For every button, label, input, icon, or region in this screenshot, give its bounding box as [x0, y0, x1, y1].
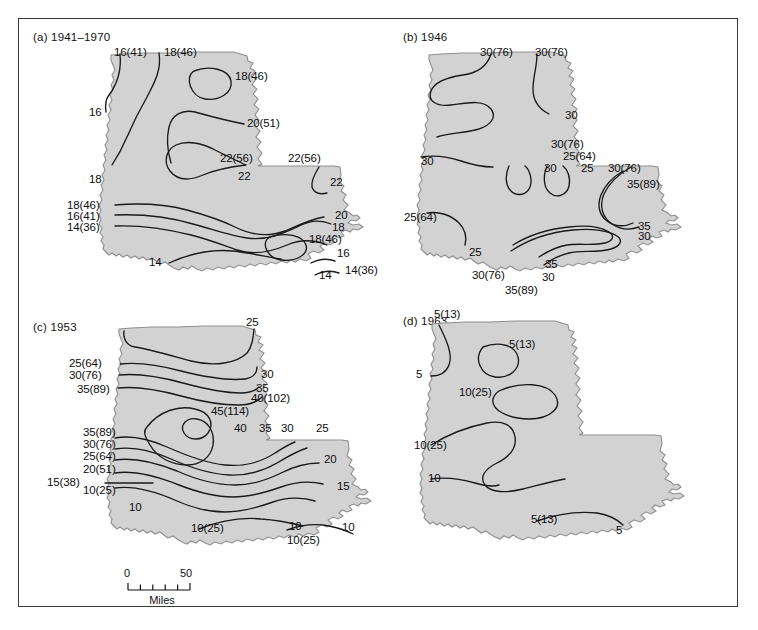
- contour-label-b-8: 30(76): [608, 163, 641, 175]
- contour-label-b-6: 30: [544, 163, 557, 175]
- figure-frame: (a) 1941–1970 16(41): [18, 18, 738, 607]
- contour-label-b-17: 30: [542, 272, 555, 284]
- contour-label-d-3: 5: [416, 369, 422, 381]
- contour-label-c-16: 20(51): [83, 464, 116, 476]
- map-d-svg: [387, 299, 739, 608]
- contour-label-c-18: 10(25): [83, 485, 116, 497]
- contour-label-c-4: 30: [261, 369, 274, 381]
- contour-label-b-2: 30(76): [535, 47, 568, 59]
- contour-label-a-3: 16: [89, 107, 102, 119]
- contour-label-a-15: 18: [332, 222, 345, 234]
- panel-a-1941-1970: (a) 1941–1970 16(41): [19, 19, 399, 311]
- scale-bar-end: 50: [180, 567, 192, 579]
- contour-label-c-9: 40: [234, 423, 247, 435]
- contour-label-c-21: 10: [129, 502, 142, 514]
- contour-label-b-13: 25(64): [404, 212, 437, 224]
- scale-bar-unit: Miles: [124, 594, 200, 606]
- panel-c-1953: (c) 1953 25 25(64) 3: [19, 299, 399, 608]
- contour-label-b-9: 35(89): [627, 179, 660, 191]
- contour-label-c-19: 20: [324, 454, 337, 466]
- contour-label-a-10: 18: [89, 174, 102, 186]
- contour-label-b-15: 30(76): [472, 270, 505, 282]
- contour-label-c-7: 40(102): [251, 393, 290, 405]
- contour-label-b-16: 35: [545, 259, 558, 271]
- map-a-svg: [19, 19, 399, 311]
- contour-label-c-2: 25(64): [69, 358, 102, 370]
- scale-bar: 0 50 Miles: [124, 567, 224, 606]
- contour-label-c-10: 35: [259, 423, 272, 435]
- map-b-svg: [387, 19, 739, 311]
- contour-label-d-1: 5(13): [434, 309, 460, 321]
- contour-label-d-2: 5(13): [509, 339, 535, 351]
- contour-label-c-1: 25: [246, 317, 259, 329]
- contour-label-b-10: 30: [421, 156, 434, 168]
- contour-label-c-11: 30: [281, 423, 294, 435]
- contour-label-c-23: 10: [289, 521, 302, 533]
- contour-label-b-1: 30(76): [480, 47, 513, 59]
- contour-label-a-19: 14(36): [345, 265, 378, 277]
- contour-label-a-2: 18(46): [164, 47, 197, 59]
- scale-bar-ticks: [124, 581, 204, 593]
- contour-label-c-12: 25: [316, 423, 329, 435]
- contour-label-b-4: 30(76): [551, 139, 584, 151]
- contour-label-d-4: 10(25): [459, 387, 492, 399]
- contour-label-a-13: 14(36): [67, 222, 100, 234]
- contour-label-c-6: 35(89): [77, 384, 110, 396]
- contour-label-c-25: 10(25): [287, 535, 320, 547]
- contour-label-b-5: 25(64): [563, 151, 596, 163]
- contour-label-a-5: 20(51): [247, 118, 280, 130]
- contour-label-a-1: 16(41): [114, 47, 147, 59]
- contour-label-a-18: 14: [319, 270, 332, 282]
- contour-label-d-5: 10(25): [414, 440, 447, 452]
- panel-d-1963: (d) 1963 5(13) 5(13) 5 10(25) 10(25) 10 …: [387, 299, 739, 608]
- contour-label-b-18: 35(89): [505, 285, 538, 297]
- contour-label-c-20: 15: [337, 481, 350, 493]
- contour-label-d-6: 10: [428, 473, 441, 485]
- contour-label-b-7: 25: [581, 163, 594, 175]
- contour-label-a-6: 22(56): [220, 153, 253, 165]
- contour-label-a-7: 22: [238, 171, 251, 183]
- contour-label-c-24: 10: [342, 522, 355, 534]
- contour-label-a-17: 16: [337, 248, 350, 260]
- contour-label-c-17: 15(38): [47, 477, 80, 489]
- map-c-svg: [19, 299, 399, 608]
- contour-label-a-16: 18(46): [309, 234, 342, 246]
- contour-label-a-9: 22: [330, 177, 343, 189]
- panel-b-1946: (b) 1946 30(76) 30(76) 30 30(76) 25(64): [387, 19, 739, 311]
- contour-label-c-14: 30(76): [83, 439, 116, 451]
- contour-label-a-4: 18(46): [235, 71, 268, 83]
- scale-bar-start: 0: [124, 567, 130, 579]
- contour-label-c-15: 25(64): [83, 451, 116, 463]
- contour-a-16-se-tail: [311, 259, 335, 263]
- contour-label-b-12: 30: [638, 231, 651, 243]
- contour-label-a-20: 14: [149, 257, 162, 269]
- contour-label-d-7: 5(13): [531, 514, 557, 526]
- contour-label-b-3: 30: [565, 110, 578, 122]
- contour-label-d-8: 5: [616, 525, 622, 537]
- contour-label-c-8: 45(114): [211, 406, 249, 418]
- contour-label-c-22: 10(25): [191, 523, 224, 535]
- contour-label-a-14: 20: [335, 210, 348, 222]
- contour-label-b-14: 25: [469, 247, 482, 259]
- contour-label-c-13: 35(89): [83, 427, 116, 439]
- contour-label-c-3: 30(76): [69, 370, 102, 382]
- contour-label-a-8: 22(56): [288, 153, 321, 165]
